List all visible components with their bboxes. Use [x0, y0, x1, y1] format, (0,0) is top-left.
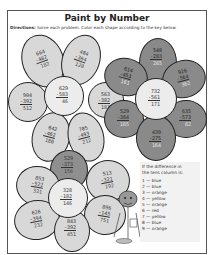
subtraction-problem: 926-564362: [174, 67, 191, 88]
subtraction-problem: 529-364165: [117, 108, 129, 127]
subtraction-problem: 626-394232: [28, 208, 43, 229]
subtraction-problem: 529-373156: [61, 155, 73, 174]
subtraction-problem: 732-561171: [148, 88, 160, 107]
subtraction-problem: 705-493212: [75, 124, 92, 145]
directions-label: Directions:: [10, 25, 36, 30]
flower-center[interactable]: 629-58346: [44, 76, 84, 116]
subtraction-problem: 548-283265: [150, 47, 162, 66]
subtraction-problem: 642-462180: [41, 123, 58, 144]
subtraction-problem: 328-182146: [60, 187, 72, 206]
subtraction-problem: 439-275164: [149, 129, 161, 148]
subtraction-problem: 664-482182: [32, 48, 50, 70]
key-item: 9 — orange: [142, 226, 198, 232]
subtraction-problem: 635-57362: [179, 108, 191, 127]
subtraction-problem: 843-392451: [64, 218, 76, 237]
worksheet-title: Paint by Number: [8, 13, 206, 23]
flower-center[interactable]: 328-182146: [48, 178, 88, 218]
flower-center[interactable]: 732-561171: [135, 78, 177, 120]
subtraction-problem: 904-392512: [20, 92, 32, 111]
directions: Directions: Solve each problem. Color ea…: [10, 25, 177, 30]
color-key: If the difference in the tens column is:…: [140, 162, 200, 242]
subtraction-problem: 629-58346: [56, 85, 68, 104]
subtraction-problem: 896-145751: [97, 203, 112, 224]
subtraction-problem: 853-522331: [30, 174, 45, 195]
key-heading-line2: the tens column is:: [142, 170, 198, 176]
subtraction-problem: 484-364120: [72, 47, 90, 69]
subtraction-problem: 614-453161: [117, 65, 134, 86]
directions-text: Solve each problem. Color each shape acc…: [37, 25, 176, 30]
petal[interactable]: 439-275164: [136, 115, 176, 161]
